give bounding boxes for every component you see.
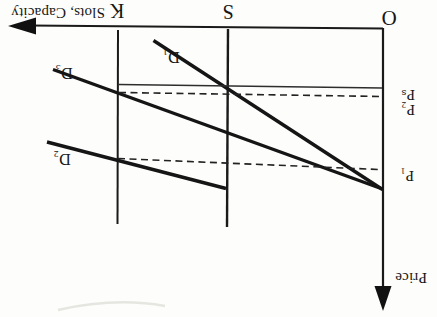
capacity-k-line <box>118 30 119 224</box>
price-label-p2: P₂ <box>401 102 415 117</box>
demand-curve-d2 <box>47 142 226 189</box>
price-line-solid <box>119 85 382 89</box>
price-line-dashed-upper <box>119 93 382 97</box>
demand-curve-d1 <box>154 41 383 190</box>
tick-label-s: S <box>222 2 233 22</box>
y-axis-label: Price <box>395 270 427 285</box>
origin-label: O <box>381 7 396 28</box>
y-axis-arrowhead-icon <box>375 286 392 311</box>
price-label-p1: P₁ <box>400 168 414 183</box>
price-label-ps: Pₛ <box>401 87 415 102</box>
scan-artifact <box>58 302 165 310</box>
scanned-figure-page: Slots, Capacity K S O D₁ D₃ D₂ Pₛ P₂ P₁ … <box>0 0 437 317</box>
curve-label-d2: D₂ <box>53 151 71 167</box>
tick-label-k: K <box>110 1 125 21</box>
x-axis-line <box>30 26 383 29</box>
curve-label-d3: D₃ <box>55 65 73 81</box>
x-axis-label: Slots, Capacity <box>11 5 105 20</box>
curve-label-d1: D₁ <box>162 49 180 65</box>
slots-s-line <box>227 29 228 227</box>
